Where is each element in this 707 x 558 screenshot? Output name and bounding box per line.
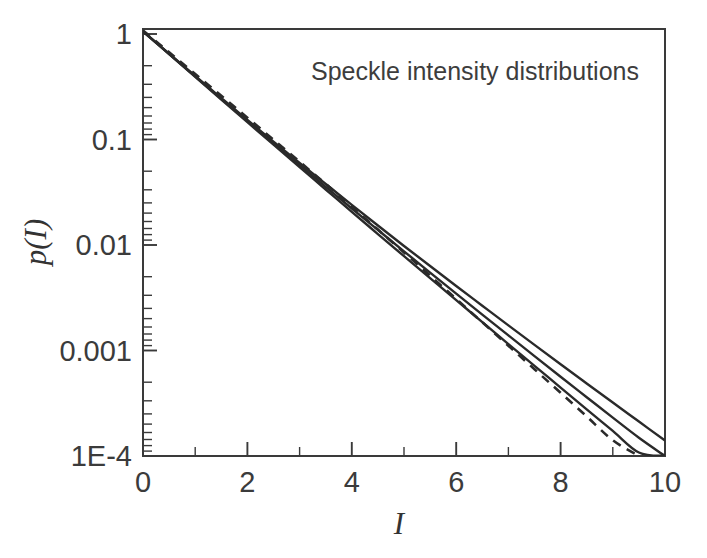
- x-tick-label-0: 0: [135, 466, 151, 498]
- x-tick-label-6: 6: [448, 466, 464, 498]
- x-tick-label-8: 8: [553, 466, 569, 498]
- y-axis-title: p(I): [18, 219, 53, 267]
- x-axis-title: I: [393, 506, 406, 541]
- x-tick-label-10: 10: [649, 466, 681, 498]
- speckle-intensity-plot: 1 0.1 0.01 0.001 1E-4 0 2 4 6 8 10 p(I) …: [0, 0, 707, 558]
- chart-figure: 1 0.1 0.01 0.001 1E-4 0 2 4 6 8 10 p(I) …: [0, 0, 707, 558]
- y-tick-label-0.001: 0.001: [59, 335, 132, 367]
- y-tick-label-1: 1: [116, 18, 132, 50]
- x-tick-label-4: 4: [344, 466, 360, 498]
- y-tick-label-1e-4: 1E-4: [71, 440, 132, 472]
- plot-title: Speckle intensity distributions: [311, 57, 639, 85]
- y-tick-label-0.1: 0.1: [92, 124, 132, 156]
- x-tick-label-2: 2: [239, 466, 255, 498]
- y-tick-label-0.01: 0.01: [76, 229, 132, 261]
